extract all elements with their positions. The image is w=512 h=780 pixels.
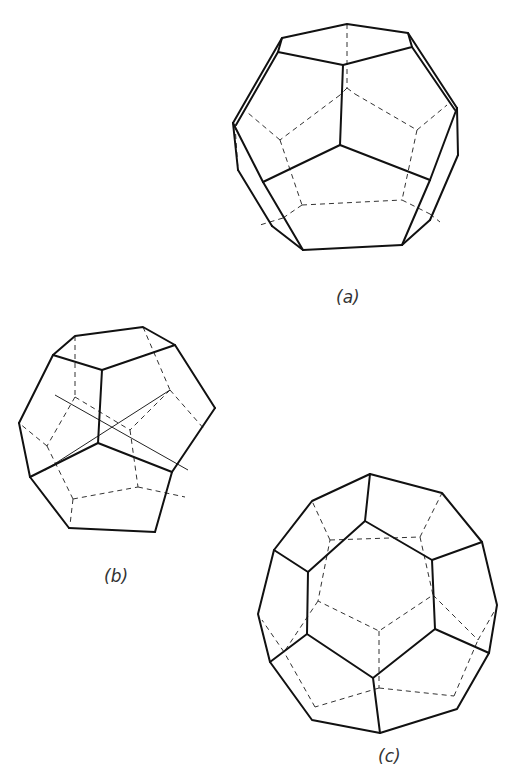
panel-label-c: (c) [378, 746, 401, 766]
panel-label-a: (a) [336, 287, 360, 307]
visible-edges-c [258, 474, 497, 733]
panel-label-b: (b) [104, 566, 128, 586]
dodecahedron-c: (c) [258, 474, 497, 766]
dodecahedron-b: (b) [19, 327, 215, 586]
visible-edges-a [233, 24, 458, 250]
hidden-edges-b [19, 327, 205, 525]
figure-canvas: (a) [0, 0, 512, 780]
dodecahedron-a: (a) [233, 24, 458, 307]
